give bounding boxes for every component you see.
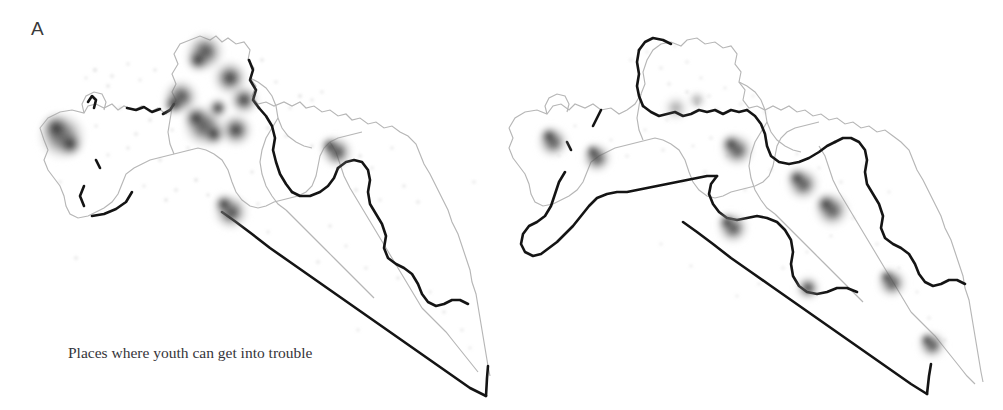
panel-a: A	[0, 0, 501, 410]
scatter-points-a	[58, 57, 477, 350]
map-b	[501, 0, 1002, 410]
figure-container: A	[0, 0, 1003, 410]
density-hotspots-b	[534, 123, 949, 362]
panel-b: B	[501, 0, 1002, 410]
minor-boundaries-b	[509, 38, 983, 384]
panel-caption-a: Places where youth can get into trouble	[68, 344, 312, 362]
